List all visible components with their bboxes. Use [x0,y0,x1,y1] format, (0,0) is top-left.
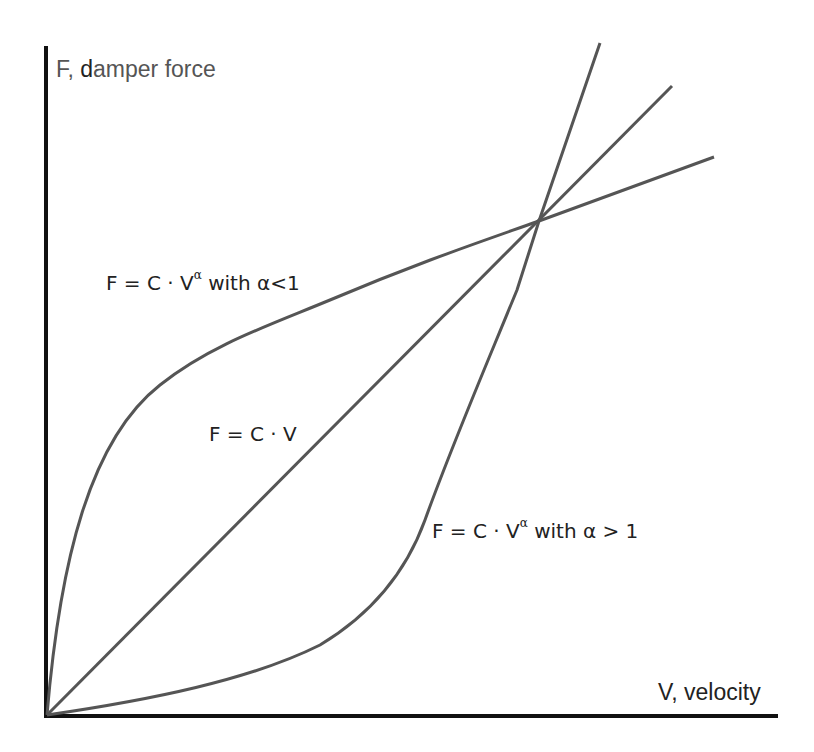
damper-force-diagram: F, damper force V, velocity F = C · Vα w… [0,0,814,752]
label-linear: F = C · V [209,422,297,446]
curve-alpha-greater-than-one [47,43,600,715]
curve-alpha-less-than-one [47,157,714,715]
x-axis-label: V, velocity [658,679,761,705]
y-axis-label: F, damper force [56,56,216,82]
curve-linear [47,86,672,715]
label-alpha-greater-than-one: F = C · Vα with α > 1 [432,516,638,543]
label-alpha-less-than-one: F = C · Vα with α<1 [106,268,300,295]
